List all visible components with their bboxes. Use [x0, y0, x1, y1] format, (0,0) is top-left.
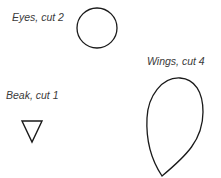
eye-circle-shape [77, 8, 117, 48]
beak-triangle-shape [22, 121, 42, 142]
cutout-shapes [0, 0, 221, 178]
wing-teardrop-shape [147, 78, 203, 176]
